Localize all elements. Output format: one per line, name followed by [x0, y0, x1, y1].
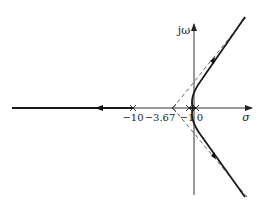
- imag-axis-label: jω: [176, 24, 190, 37]
- root-locus-figure: −10 −3.67 −1 0 σ jω: [0, 0, 267, 210]
- tick-label-origin: 0: [197, 112, 203, 123]
- tick-labels: −10 −3.67 −1 0: [122, 112, 203, 123]
- arrow-left-icon: [95, 105, 103, 111]
- tick-label-neg10: −10: [122, 112, 143, 123]
- real-axis-label: σ: [242, 111, 250, 124]
- root-locus-branches: [12, 17, 245, 197]
- asymptotes: [173, 16, 247, 197]
- locus-upper-branch: [192, 17, 245, 108]
- tick-label-centroid: −3.67: [145, 112, 176, 123]
- tick-label-neg1: −1: [180, 112, 195, 123]
